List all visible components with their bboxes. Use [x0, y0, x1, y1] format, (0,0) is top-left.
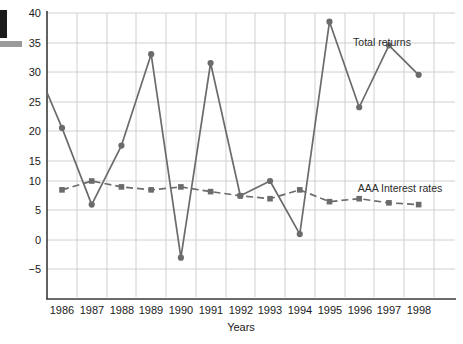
- data-point: [386, 200, 392, 206]
- data-point: [89, 202, 95, 208]
- annotation-total-returns: Total returns: [353, 36, 411, 48]
- data-point: [356, 196, 362, 202]
- x-axis-title: Years: [227, 321, 255, 333]
- x-tick-label: 1987: [80, 304, 104, 316]
- x-tick-label: 1994: [288, 304, 312, 316]
- y-axis-tick-labels: 40 35 30 25 20 15 10 5 0 −5: [28, 7, 41, 275]
- scrollbar-fragment-artifact: [0, 41, 22, 47]
- y-tick-label: 40: [29, 7, 41, 19]
- chart-container: 40 35 30 25 20 15 10 5 0 −5 1986 1987 19…: [0, 0, 463, 344]
- cursor-caret-artifact: [0, 10, 7, 38]
- x-tick-label: 1989: [139, 304, 163, 316]
- data-point: [178, 184, 184, 190]
- data-point: [326, 19, 332, 25]
- x-tick-label: 1988: [110, 304, 134, 316]
- y-tick-label: 25: [29, 96, 41, 108]
- x-tick-label: 1993: [258, 304, 282, 316]
- series-total-returns: [47, 19, 422, 261]
- x-tick-label: 1995: [318, 304, 342, 316]
- data-point: [416, 72, 422, 78]
- x-tick-label: 1991: [199, 304, 223, 316]
- data-point: [59, 187, 65, 193]
- y-tick-label: 5: [35, 204, 41, 216]
- data-point: [178, 255, 184, 261]
- x-tick-label: 1986: [50, 304, 74, 316]
- data-point: [267, 178, 273, 184]
- gridlines-horizontal: [47, 13, 455, 269]
- y-tick-label: −5: [28, 263, 41, 275]
- data-point: [297, 187, 303, 193]
- data-point: [416, 202, 422, 208]
- y-tick-label: 35: [29, 37, 41, 49]
- data-point: [148, 187, 154, 193]
- y-tick-label: 20: [29, 125, 41, 137]
- x-tick-label: 1992: [229, 304, 253, 316]
- y-tick-label: 10: [29, 175, 41, 187]
- x-tick-label: 1990: [169, 304, 193, 316]
- y-tick-label: 0: [35, 234, 41, 246]
- x-tick-label: 1998: [407, 304, 431, 316]
- data-point: [208, 60, 214, 66]
- data-point: [118, 143, 124, 149]
- y-tick-label: 15: [29, 155, 41, 167]
- data-point: [119, 184, 125, 190]
- x-axis-tick-labels: 1986 1987 1988 1989 1990 1991 1992 1993 …: [50, 304, 431, 316]
- data-point: [148, 51, 154, 57]
- data-point: [89, 178, 95, 184]
- data-point: [237, 193, 243, 199]
- series-line-total-returns: [47, 22, 419, 258]
- data-point: [59, 125, 65, 131]
- x-tick-label: 1996: [348, 304, 372, 316]
- y-tick-label: 30: [29, 66, 41, 78]
- x-tick-label: 1997: [377, 304, 401, 316]
- data-point: [267, 196, 273, 202]
- annotation-aaa-interest-rates: AAA Interest rates: [358, 182, 443, 194]
- data-point: [327, 199, 333, 205]
- gridlines-vertical: [77, 13, 434, 297]
- data-point: [208, 189, 214, 195]
- line-chart: 40 35 30 25 20 15 10 5 0 −5 1986 1987 19…: [0, 0, 463, 344]
- data-point: [356, 104, 362, 110]
- data-point: [297, 231, 303, 237]
